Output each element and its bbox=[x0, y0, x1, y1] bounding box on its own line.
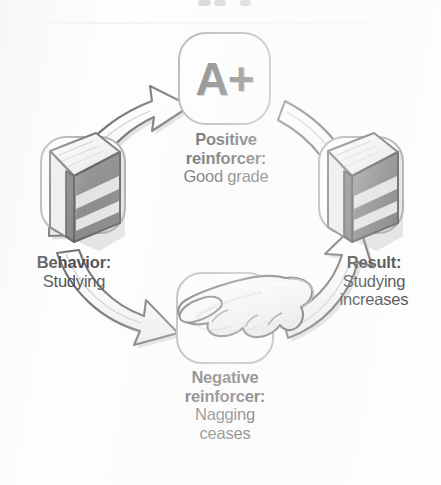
label-behavior-body: Studying bbox=[8, 272, 140, 291]
nagging-hand-icon bbox=[178, 276, 313, 337]
grade-a-plus-icon: A+ bbox=[178, 32, 271, 125]
label-behavior-heading: Behavior: bbox=[8, 253, 140, 272]
label-result: Result: Studying increases bbox=[311, 253, 437, 309]
label-positive-reinforcer: Positive reinforcer: Good grade bbox=[151, 130, 301, 186]
label-negative-heading-line1: Negative bbox=[150, 368, 300, 387]
label-negative-body-line1: Nagging bbox=[150, 405, 300, 424]
label-negative-reinforcer: Negative reinforcer: Nagging ceases bbox=[150, 368, 300, 443]
label-positive-heading-line2: reinforcer: bbox=[151, 149, 301, 168]
book-icon bbox=[50, 133, 125, 251]
book-icon bbox=[328, 133, 403, 251]
label-behavior: Behavior: Studying bbox=[8, 253, 140, 290]
label-result-body-line2: increases bbox=[311, 290, 437, 309]
label-result-body-line1: Studying bbox=[311, 272, 437, 291]
label-negative-heading-line2: reinforcer: bbox=[150, 387, 300, 406]
label-result-heading: Result: bbox=[311, 253, 437, 272]
diagram-canvas: A+ Positive reinforcer: Good grade Behav… bbox=[0, 0, 441, 485]
label-positive-heading-line1: Positive bbox=[151, 130, 301, 149]
label-positive-body: Good grade bbox=[151, 167, 301, 186]
label-negative-body-line2: ceases bbox=[150, 424, 300, 443]
